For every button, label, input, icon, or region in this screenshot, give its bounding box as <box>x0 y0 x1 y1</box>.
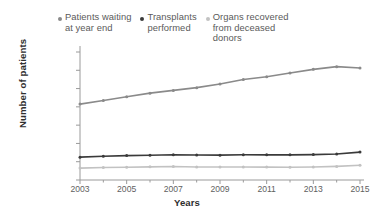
series-point-1-0 <box>79 156 82 159</box>
series-point-1-5 <box>195 154 198 157</box>
series-point-2-8 <box>265 166 268 169</box>
series-point-0-10 <box>312 68 315 71</box>
series-point-0-3 <box>149 92 152 95</box>
series-point-0-6 <box>219 83 222 86</box>
series-point-0-5 <box>195 86 198 89</box>
series-point-1-9 <box>289 153 292 156</box>
series-point-1-1 <box>102 155 105 158</box>
series-point-2-1 <box>102 166 105 169</box>
series-point-2-10 <box>312 166 315 169</box>
series-point-1-11 <box>335 152 338 155</box>
series-point-2-6 <box>219 166 222 169</box>
series-point-0-4 <box>172 89 175 92</box>
series-point-2-3 <box>149 165 152 168</box>
series-point-1-8 <box>265 153 268 156</box>
series-point-2-11 <box>335 165 338 168</box>
series-point-0-7 <box>242 78 245 81</box>
series-point-0-11 <box>335 65 338 68</box>
series-point-2-4 <box>172 165 175 168</box>
series-point-1-2 <box>125 154 128 157</box>
series-point-0-1 <box>102 99 105 102</box>
series-point-1-7 <box>242 153 245 156</box>
series-point-2-0 <box>79 167 82 170</box>
series-point-0-2 <box>125 95 128 98</box>
series-point-2-2 <box>125 166 128 169</box>
series-point-1-12 <box>359 151 362 154</box>
axis-spines <box>80 46 364 180</box>
series-point-2-9 <box>289 166 292 169</box>
chart-plot-area <box>0 0 374 216</box>
series-point-1-3 <box>149 154 152 157</box>
series-point-0-8 <box>265 75 268 78</box>
series-point-0-0 <box>79 103 82 106</box>
series-point-0-12 <box>359 67 362 70</box>
series-point-2-12 <box>359 164 362 167</box>
series-point-1-4 <box>172 153 175 156</box>
series-point-2-7 <box>242 165 245 168</box>
series-point-2-5 <box>195 165 198 168</box>
series-point-1-10 <box>312 153 315 156</box>
chart-figure: Patients waiting at year end Transplants… <box>0 0 374 216</box>
series-point-0-9 <box>289 72 292 75</box>
series-point-1-6 <box>219 154 222 157</box>
